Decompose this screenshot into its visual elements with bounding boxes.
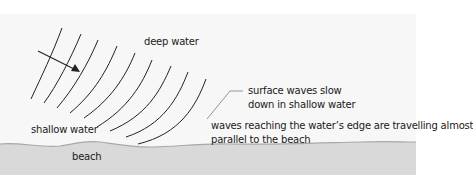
surface-waves-label-line1: surface waves slow (248, 84, 342, 97)
waves-reaching-label-line2: parallel to the beach (211, 133, 310, 146)
shallow-water-label: shallow water (31, 123, 98, 136)
beach-label: beach (72, 150, 101, 163)
surface-waves-label-line2: down in shallow water (248, 98, 355, 111)
beach-area (0, 141, 416, 175)
deep-water-label: deep water (144, 35, 199, 48)
waves-reaching-label-line1: waves reaching the water’s edge are trav… (211, 119, 473, 132)
water-area (0, 14, 416, 164)
